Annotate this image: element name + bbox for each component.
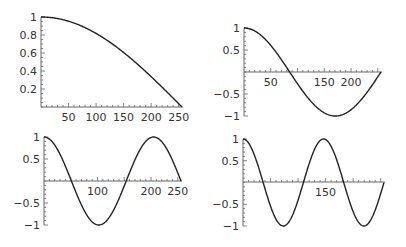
x-tick-label: 50	[264, 76, 278, 89]
x-tick-label: 200	[341, 76, 362, 89]
x-tick-label: 100	[87, 185, 108, 198]
y-tick-label: 0.5	[222, 155, 240, 168]
y-tick-label: −1	[223, 220, 239, 233]
y-tick-label: −1	[224, 110, 240, 123]
x-tick-label: 100	[86, 111, 107, 124]
chart-grid: 501001502002500.20.40.60.81 50150200−1−0…	[0, 0, 406, 247]
y-tick-label: 0.6	[20, 47, 38, 60]
y-tick-label: −0.5	[13, 197, 40, 210]
y-tick-label: 1	[33, 131, 40, 144]
x-tick-label: 250	[167, 185, 188, 198]
y-tick-label: 0.2	[20, 83, 38, 96]
y-tick-label: 0.8	[20, 29, 38, 42]
y-tick-label: 0.5	[23, 153, 41, 166]
x-tick-label: 150	[314, 76, 335, 89]
y-tick-label: 1	[233, 22, 240, 35]
x-tick-label: 200	[141, 111, 162, 124]
plot-bottom-right: 150−1−0.50.51	[212, 133, 385, 233]
y-tick-label: 1	[232, 133, 239, 146]
plot-top-left: 501001502002500.20.40.60.81	[20, 11, 190, 124]
y-tick-label: 0.5	[223, 44, 241, 57]
cosine-curve	[41, 17, 182, 107]
x-tick-label: 150	[315, 186, 336, 199]
y-tick-label: 0.4	[20, 65, 38, 78]
plot-bottom-left: 100200250−1−0.50.51	[13, 131, 188, 232]
x-tick-label: 200	[141, 185, 162, 198]
plot-top-right: 50150200−1−0.50.51	[213, 22, 382, 123]
x-tick-label: 50	[62, 111, 76, 124]
y-tick-label: −0.5	[213, 88, 240, 101]
y-tick-label: −0.5	[212, 198, 239, 211]
y-tick-label: 1	[30, 11, 37, 24]
y-tick-label: −1	[24, 219, 40, 232]
x-tick-label: 250	[168, 111, 189, 124]
x-tick-label: 150	[113, 111, 134, 124]
